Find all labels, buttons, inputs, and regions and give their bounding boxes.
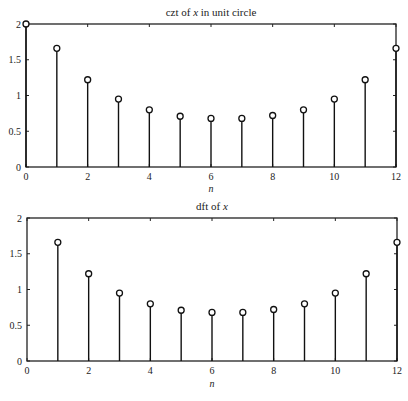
stem-marker — [240, 309, 246, 315]
dft-stem-plot: dft of x02468101200.511.52n — [0, 195, 408, 401]
stem-marker — [302, 301, 308, 307]
x-tick-label: 6 — [210, 365, 215, 376]
y-tick-label: 0.5 — [9, 126, 22, 137]
x-tick-label: 0 — [24, 171, 29, 182]
x-tick-label: 2 — [86, 365, 91, 376]
x-tick-label: 10 — [330, 365, 340, 376]
y-tick-label: 1.5 — [10, 248, 23, 259]
stem-marker — [393, 45, 399, 51]
y-tick-label: 0 — [16, 162, 21, 173]
stem-marker — [86, 271, 92, 277]
stem-marker — [363, 271, 369, 277]
stem-marker — [301, 107, 307, 113]
czt-stem-plot: czt of x in unit circle02468101200.511.5… — [0, 0, 408, 200]
x-tick-label: 4 — [147, 171, 152, 182]
stem-marker — [116, 96, 122, 102]
x-tick-label: 10 — [329, 171, 339, 182]
stem-marker — [54, 45, 60, 51]
stem-marker — [331, 96, 337, 102]
stem-marker — [23, 21, 29, 27]
stem-marker — [178, 307, 184, 313]
czt-chart-panel: czt of x in unit circle02468101200.511.5… — [0, 0, 408, 200]
y-tick-label: 0.5 — [10, 320, 23, 331]
dft-chart-panel: dft of x02468101200.511.52n — [0, 195, 408, 401]
stem-marker — [55, 239, 61, 245]
stem-marker — [362, 77, 368, 83]
stem-marker — [146, 107, 152, 113]
x-axis-label: n — [209, 183, 214, 194]
x-tick-label: 12 — [391, 171, 401, 182]
x-tick-label: 4 — [148, 365, 153, 376]
chart-title: dft of x — [196, 200, 228, 212]
y-tick-label: 2 — [17, 213, 22, 224]
x-tick-label: 8 — [270, 171, 275, 182]
stem-marker — [177, 113, 183, 119]
stem-marker — [85, 77, 91, 83]
x-tick-label: 6 — [209, 171, 214, 182]
stem-marker — [270, 113, 276, 119]
x-tick-label: 2 — [85, 171, 90, 182]
stem-marker — [394, 239, 400, 245]
x-axis-label: n — [210, 378, 215, 389]
x-tick-label: 8 — [271, 365, 276, 376]
chart-title: czt of x in unit circle — [166, 6, 257, 18]
stem-marker — [147, 301, 153, 307]
y-tick-label: 1 — [16, 90, 21, 101]
x-tick-label: 12 — [392, 365, 402, 376]
stem-marker — [239, 115, 245, 121]
y-tick-label: 1.5 — [9, 54, 22, 65]
stem-marker — [117, 290, 123, 296]
stem-marker — [332, 290, 338, 296]
stem-marker — [271, 307, 277, 313]
x-tick-label: 0 — [25, 365, 30, 376]
stem-marker — [209, 309, 215, 315]
y-tick-label: 0 — [17, 356, 22, 367]
y-tick-label: 2 — [16, 19, 21, 30]
y-tick-label: 1 — [17, 284, 22, 295]
stem-marker — [208, 115, 214, 121]
